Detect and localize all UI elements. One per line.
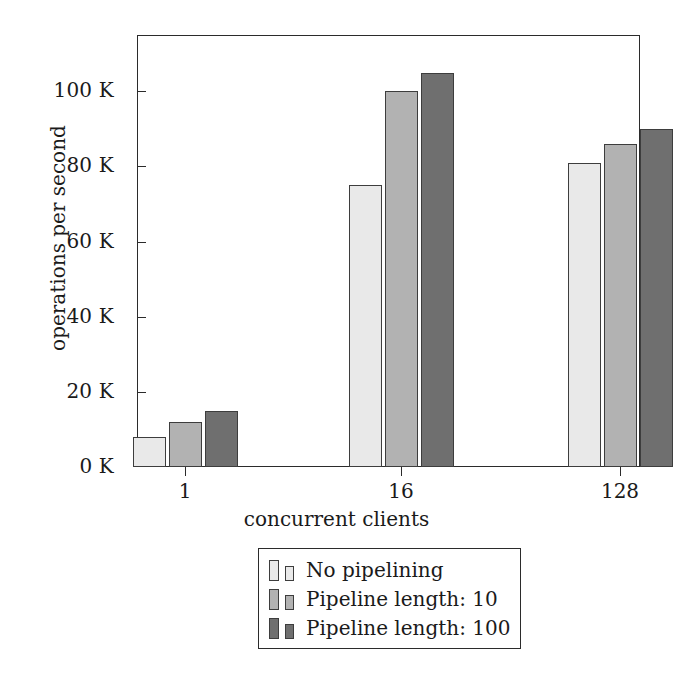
x-axis-tick <box>620 467 621 476</box>
legend-swatch-tall-icon <box>269 618 279 639</box>
x-axis-tick-label: 16 <box>341 479 461 503</box>
legend-swatch-pair <box>269 617 301 639</box>
x-axis-tick <box>185 467 186 476</box>
legend-item: No pipelining <box>259 555 520 584</box>
legend: No pipeliningPipeline length: 10Pipeline… <box>258 548 521 649</box>
y-axis-tick <box>137 392 146 393</box>
legend-label: Pipeline length: 100 <box>306 617 510 639</box>
bar-chart: 0 K20 K40 K60 K80 K100 K 116128 operatio… <box>0 0 673 687</box>
legend-item: Pipeline length: 10 <box>259 584 520 613</box>
y-axis-tick <box>137 166 146 167</box>
legend-swatch-tall-icon <box>269 560 279 581</box>
bar <box>640 129 673 467</box>
legend-swatch-short-icon <box>285 624 294 639</box>
y-axis-tick-label: 0 K <box>18 456 114 476</box>
y-axis-tick <box>137 242 146 243</box>
legend-swatch-tall-icon <box>269 589 279 610</box>
legend-label: Pipeline length: 10 <box>306 588 498 610</box>
y-axis-tick-label: 20 K <box>18 381 114 401</box>
y-axis-tick <box>137 91 146 92</box>
plot-area-frame <box>137 35 640 467</box>
x-axis-title: concurrent clients <box>0 507 673 531</box>
legend-label: No pipelining <box>306 559 444 581</box>
legend-swatch-short-icon <box>285 595 294 610</box>
y-axis-tick-label: 100 K <box>18 80 114 100</box>
x-axis-tick-label: 1 <box>125 479 245 503</box>
y-axis-title: operations per second <box>46 118 70 358</box>
y-axis-tick <box>137 317 146 318</box>
x-axis-tick <box>401 467 402 476</box>
legend-swatch-short-icon <box>285 566 294 581</box>
legend-item: Pipeline length: 100 <box>259 613 520 642</box>
x-axis-tick-label: 128 <box>560 479 673 503</box>
legend-swatch-pair <box>269 588 301 610</box>
legend-swatch-pair <box>269 559 301 581</box>
